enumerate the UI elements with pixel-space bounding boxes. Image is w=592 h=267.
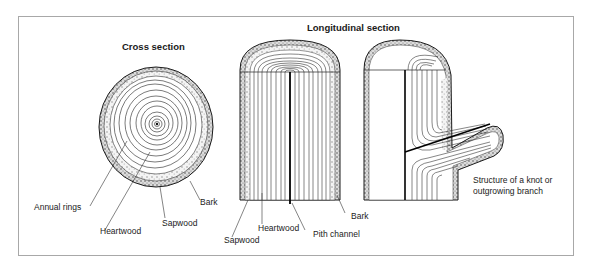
label-cross-heartwood: Heartwood bbox=[100, 226, 141, 236]
label-cross-sapwood: Sapwood bbox=[162, 218, 197, 228]
knot-caption-line2: outgrowing branch bbox=[473, 186, 543, 196]
label-long-bark: Bark bbox=[351, 211, 368, 221]
label-annual-rings: Annual rings bbox=[34, 202, 81, 212]
knot-caption-line1: Structure of a knot or bbox=[473, 175, 552, 185]
cross-heartwood bbox=[110, 76, 202, 174]
label-pith-channel: Pith channel bbox=[313, 229, 360, 239]
cross-section-title: Cross section bbox=[122, 41, 185, 52]
cross-section-drawing bbox=[90, 67, 213, 230]
label-long-heartwood: Heartwood bbox=[258, 223, 299, 233]
longitudinal-section-title: Longitudinal section bbox=[307, 22, 400, 33]
pith-dot bbox=[156, 123, 158, 125]
label-long-sapwood: Sapwood bbox=[224, 235, 259, 245]
label-cross-bark: Bark bbox=[200, 197, 217, 207]
longitudinal-section-drawing bbox=[232, 40, 345, 237]
